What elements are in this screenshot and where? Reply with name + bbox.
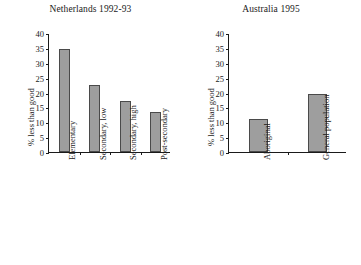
y-axis-tick: [226, 153, 229, 154]
y-axis-tick-label: 40: [36, 30, 45, 39]
x-axis-category-label: General population: [321, 95, 331, 160]
y-axis-tick: [226, 94, 229, 95]
panel-title-netherlands: Netherlands 1992-93: [0, 4, 181, 14]
y-axis-tick-label: 5: [220, 134, 224, 143]
x-axis-tick: [288, 152, 289, 155]
y-axis-tick-label: 0: [40, 149, 44, 158]
panel-title-australia: Australia 1995: [181, 4, 361, 14]
y-axis-tick: [46, 34, 49, 35]
y-axis-tick-label: 35: [36, 45, 45, 54]
y-axis-tick-label: 40: [216, 30, 225, 39]
y-axis-tick-label: 15: [36, 104, 45, 113]
y-axis-tick-label: 25: [216, 74, 225, 83]
y-axis-tick-label: 30: [36, 60, 45, 69]
y-axis-tick-label: 15: [216, 104, 225, 113]
figure-two-panel-bar-charts: Netherlands 1992-93 % less than good 051…: [0, 0, 361, 265]
y-axis-tick: [46, 64, 49, 65]
y-axis-tick: [226, 34, 229, 35]
y-axis-tick: [46, 108, 49, 109]
y-axis-tick: [46, 123, 49, 124]
y-axis-tick: [46, 153, 49, 154]
y-axis-tick: [226, 64, 229, 65]
x-axis-tick: [110, 152, 111, 155]
y-axis-tick-label: 25: [36, 74, 45, 83]
y-axis-tick-label: 5: [40, 134, 44, 143]
y-axis-tick: [226, 49, 229, 50]
y-axis-tick: [226, 108, 229, 109]
y-axis-tick: [226, 138, 229, 139]
y-axis-tick: [226, 123, 229, 124]
x-axis-category-label: Secondary, high: [128, 105, 138, 160]
y-axis-tick-label: 20: [36, 89, 45, 98]
x-axis-tick: [80, 152, 81, 155]
y-axis-tick-label: 35: [216, 45, 225, 54]
y-axis-tick: [226, 79, 229, 80]
y-axis-tick: [46, 138, 49, 139]
y-axis-title-australia: % less than good: [206, 88, 216, 146]
x-axis-category-label: Aboriginal: [262, 123, 272, 160]
x-axis-category-label: Elementary: [67, 121, 77, 160]
y-axis-tick-label: 0: [220, 149, 224, 158]
panel-netherlands: Netherlands 1992-93 % less than good 051…: [0, 0, 181, 265]
y-axis-tick-label: 10: [36, 119, 45, 128]
y-axis-title-netherlands: % less than good: [26, 88, 36, 146]
y-axis-tick: [46, 79, 49, 80]
y-axis-tick-label: 20: [216, 89, 225, 98]
panel-australia: Australia 1995 % less than good 05101520…: [181, 0, 361, 265]
x-axis-tick: [141, 152, 142, 155]
x-axis-category-label: Secondary, low: [98, 108, 108, 160]
y-axis-tick: [46, 49, 49, 50]
y-axis-tick-label: 30: [216, 60, 225, 69]
y-axis-tick-label: 10: [216, 119, 225, 128]
y-axis-tick: [46, 94, 49, 95]
x-axis-category-label: Post-secondary: [159, 108, 169, 160]
